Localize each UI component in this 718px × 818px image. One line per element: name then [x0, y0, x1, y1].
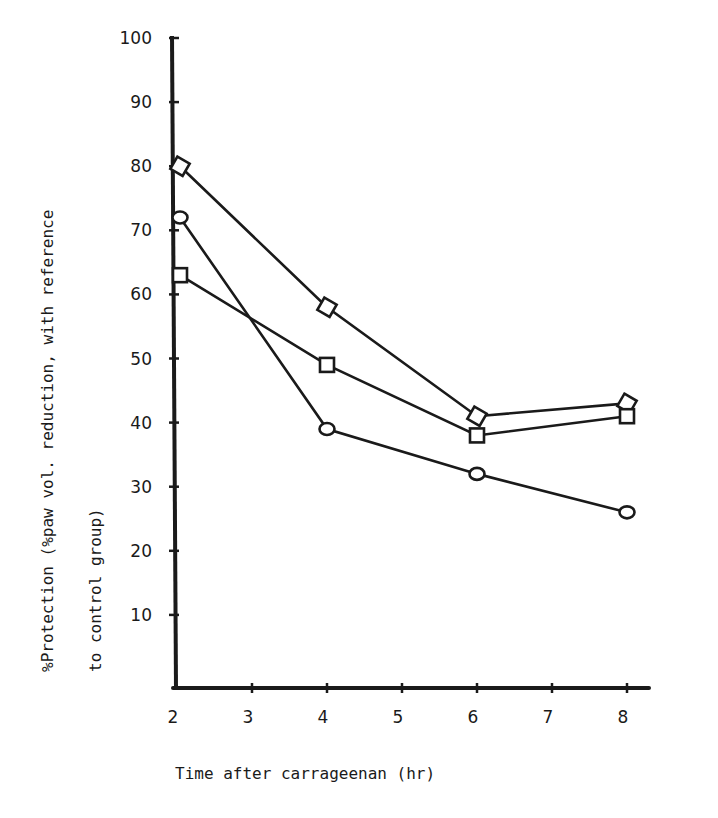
y-tick-label: 80 [130, 156, 152, 176]
y-tick-label: 90 [130, 92, 152, 112]
y-axis-line [172, 36, 176, 688]
square-marker [620, 409, 634, 423]
line-chart: %Protection (%paw vol. reduction, with r… [0, 0, 718, 818]
y-axis-ticks: 102030405060708090100 [120, 28, 179, 625]
circle-marker [470, 468, 485, 480]
series-line [180, 166, 627, 416]
y-tick-label: 40 [130, 413, 152, 433]
x-tick-label: 6 [468, 707, 479, 727]
y-tick-label: 70 [130, 220, 152, 240]
series-diamond [168, 154, 639, 428]
square-marker [173, 268, 187, 282]
x-axis-title: Time after carrageenan (hr) [175, 764, 435, 783]
y-tick-label: 60 [130, 284, 152, 304]
y-axis-title: %Protection (%paw vol. reduction, with r… [38, 210, 105, 672]
y-tick-label: 10 [130, 605, 152, 625]
y-axis-title-line1: %Protection (%paw vol. reduction, with r… [38, 210, 57, 672]
circle-marker [620, 506, 635, 518]
x-tick-label: 3 [243, 707, 254, 727]
square-marker [320, 358, 334, 372]
y-tick-label: 50 [130, 349, 152, 369]
y-axis-title-line2: to control group) [86, 508, 105, 672]
square-marker [470, 428, 484, 442]
series-layer [168, 154, 639, 518]
series-line [180, 275, 627, 435]
x-tick-label: 4 [318, 707, 329, 727]
circle-marker [173, 211, 188, 223]
series-square [173, 268, 634, 442]
diamond-marker [465, 404, 489, 428]
series-line [180, 217, 627, 512]
series-circle [173, 211, 635, 518]
x-tick-label: 8 [618, 707, 629, 727]
y-tick-label: 100 [120, 28, 152, 48]
y-tick-label: 30 [130, 477, 152, 497]
x-tick-label: 5 [393, 707, 404, 727]
y-tick-label: 20 [130, 541, 152, 561]
x-tick-label: 7 [543, 707, 554, 727]
circle-marker [320, 423, 335, 435]
x-tick-label: 2 [168, 707, 179, 727]
